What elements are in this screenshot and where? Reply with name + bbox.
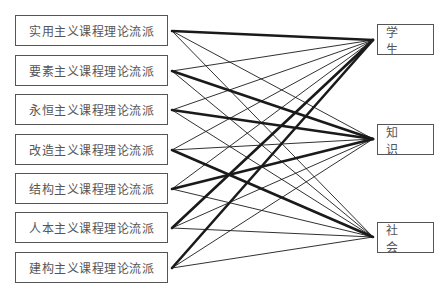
node-label: 要素主义课程理论流派 — [29, 62, 154, 79]
diagram-canvas: 实用主义课程理论流派 要素主义课程理论流派 永恒主义课程理论流派 改造主义课程理… — [0, 0, 448, 292]
node-label: 永恒主义课程理论流派 — [29, 101, 154, 118]
node-label: 学 生 — [386, 23, 433, 57]
link-line — [172, 40, 373, 268]
node-label: 社 会 — [386, 221, 433, 255]
node-reconstructionism: 改造主义课程理论流派 — [15, 134, 168, 165]
node-student: 学 生 — [377, 24, 434, 55]
node-society: 社 会 — [377, 222, 434, 253]
node-label: 建构主义课程理论流派 — [29, 259, 154, 276]
node-perennialism: 永恒主义课程理论流派 — [15, 94, 168, 125]
node-label: 知 识 — [386, 123, 433, 157]
node-label: 改造主义课程理论流派 — [29, 141, 154, 158]
node-structuralism: 结构主义课程理论流派 — [15, 173, 168, 204]
link-line — [172, 139, 373, 268]
node-humanism: 人本主义课程理论流派 — [15, 212, 168, 243]
node-label: 实用主义课程理论流派 — [29, 22, 154, 39]
node-constructivism: 建构主义课程理论流派 — [15, 252, 168, 283]
node-knowledge: 知 识 — [377, 124, 434, 155]
link-line — [172, 31, 373, 40]
link-line — [172, 31, 373, 139]
node-essentialism: 要素主义课程理论流派 — [15, 55, 168, 86]
node-label: 人本主义课程理论流派 — [29, 219, 154, 236]
link-line — [172, 139, 373, 150]
link-line — [172, 40, 373, 71]
link-line — [172, 237, 373, 268]
node-label: 结构主义课程理论流派 — [29, 180, 154, 197]
node-pragmatism: 实用主义课程理论流派 — [15, 15, 168, 46]
